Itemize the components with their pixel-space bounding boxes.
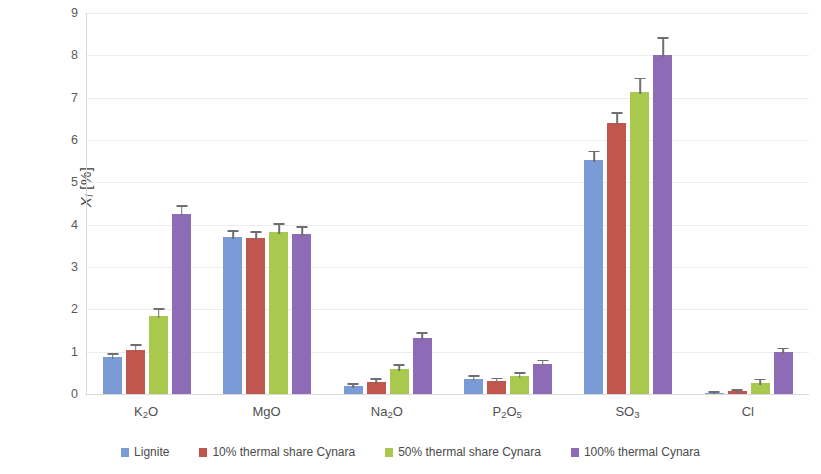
bar[interactable] — [533, 364, 552, 394]
bar-column[interactable] — [728, 13, 747, 394]
bar[interactable] — [223, 237, 242, 394]
x-tick-label: Na2O — [327, 404, 447, 420]
error-bar-cap — [348, 383, 359, 385]
bar-column[interactable] — [464, 13, 483, 394]
bar-group — [448, 13, 568, 394]
error-bar — [232, 232, 234, 240]
bar-group — [207, 13, 327, 394]
legend-item[interactable]: 50% thermal share Cynara — [385, 445, 541, 459]
error-bar — [519, 374, 521, 379]
legend-label: 50% thermal share Cynara — [398, 445, 541, 459]
bar-chart: Xi [%] 0123456789 K2OMgONa2OP2O5SO3Cl Li… — [0, 0, 821, 474]
error-bar — [181, 207, 183, 216]
bar[interactable] — [510, 376, 529, 394]
x-tick-label: SO3 — [568, 404, 688, 420]
bar-column[interactable] — [344, 13, 363, 394]
error-bar-cap — [130, 344, 141, 346]
bar-column[interactable] — [705, 13, 724, 394]
legend-swatch-icon — [121, 448, 129, 457]
bar[interactable] — [653, 55, 672, 395]
bar[interactable] — [390, 369, 409, 394]
bar[interactable] — [103, 357, 122, 394]
error-bar-cap — [611, 112, 622, 114]
legend-item[interactable]: 10% thermal share Cynara — [199, 445, 355, 459]
bar-column[interactable] — [487, 13, 506, 394]
y-tick-label: 0 — [56, 387, 78, 401]
bar-column[interactable] — [269, 13, 288, 394]
error-bar-cap — [176, 205, 187, 207]
error-bar — [473, 377, 475, 381]
bar-group-bars — [328, 13, 448, 394]
bar-column[interactable] — [223, 13, 242, 394]
legend-swatch-icon — [199, 448, 207, 457]
bar-column[interactable] — [510, 13, 529, 394]
legend-label: 10% thermal share Cynara — [212, 445, 355, 459]
error-bar-cap — [371, 378, 382, 380]
error-bar-cap — [514, 372, 525, 374]
bar[interactable] — [630, 92, 649, 394]
bar[interactable] — [149, 316, 168, 394]
bar-column[interactable] — [630, 13, 649, 394]
y-tick-label: 9 — [56, 6, 78, 20]
bar-column[interactable] — [172, 13, 191, 394]
legend-item[interactable]: 100% thermal Cynara — [571, 445, 700, 459]
bar[interactable] — [292, 234, 311, 394]
bar-column[interactable] — [774, 13, 793, 394]
bar-column[interactable] — [367, 13, 386, 394]
bar[interactable] — [774, 352, 793, 394]
error-bar — [737, 391, 739, 394]
bar-group-bars — [568, 13, 688, 394]
y-tick-label: 6 — [56, 133, 78, 147]
error-bar — [112, 355, 114, 360]
error-bar — [639, 79, 641, 94]
bar-column[interactable] — [292, 13, 311, 394]
error-bar — [399, 366, 401, 371]
bar[interactable] — [172, 214, 191, 394]
bar[interactable] — [464, 379, 483, 394]
bar-group — [689, 13, 809, 394]
error-bar — [760, 380, 762, 384]
error-bar-cap — [227, 230, 238, 232]
x-tick-label: P2O5 — [447, 404, 567, 420]
error-bar — [278, 225, 280, 235]
bar[interactable] — [584, 160, 603, 394]
bar-column[interactable] — [126, 13, 145, 394]
bar[interactable] — [269, 232, 288, 394]
error-bar-cap — [657, 37, 668, 39]
legend-item[interactable]: Lignite — [121, 445, 169, 459]
bar-column[interactable] — [390, 13, 409, 394]
bar-column[interactable] — [607, 13, 626, 394]
bar-group-bars — [207, 13, 327, 394]
error-bar — [783, 349, 785, 354]
y-tick-label: 3 — [56, 260, 78, 274]
y-tick-label: 1 — [56, 345, 78, 359]
error-bar — [301, 228, 303, 236]
bar-column[interactable] — [584, 13, 603, 394]
bar-group — [87, 13, 207, 394]
y-tick-label: 2 — [56, 302, 78, 316]
error-bar-cap — [296, 226, 307, 228]
bar-column[interactable] — [751, 13, 770, 394]
error-bar-cap — [537, 360, 548, 362]
bar-column[interactable] — [103, 13, 122, 394]
y-tick-label: 5 — [56, 175, 78, 189]
bar-column[interactable] — [149, 13, 168, 394]
error-bar — [353, 385, 355, 389]
bar-column[interactable] — [413, 13, 432, 394]
x-tick-label: MgO — [207, 404, 327, 419]
bar-group — [568, 13, 688, 394]
error-bar-cap — [417, 332, 428, 334]
error-bar-cap — [588, 151, 599, 153]
bar[interactable] — [246, 238, 265, 394]
bar[interactable] — [607, 123, 626, 394]
plot-area — [86, 13, 809, 395]
legend-swatch-icon — [571, 448, 579, 457]
bar-column[interactable] — [533, 13, 552, 394]
bar-column[interactable] — [653, 13, 672, 394]
bar-column[interactable] — [246, 13, 265, 394]
error-bar-cap — [250, 231, 261, 233]
error-bar — [422, 334, 424, 340]
x-tick-label: K2O — [86, 404, 206, 420]
bar[interactable] — [413, 338, 432, 394]
bar[interactable] — [126, 350, 145, 394]
